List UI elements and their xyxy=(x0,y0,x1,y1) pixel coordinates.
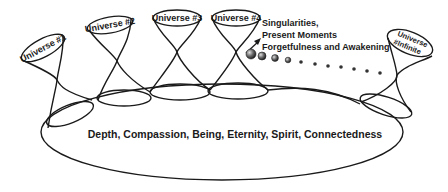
universe-3 xyxy=(150,10,210,100)
universe-3-label: Universe #3 xyxy=(152,13,203,23)
annotation-line-2: Present Moments xyxy=(262,30,337,40)
universe-4-label: Universe #4 xyxy=(211,13,262,23)
annotation-line-1: Singularities, xyxy=(262,18,319,28)
sphere-sequence xyxy=(246,49,382,75)
universe-2-label: Universe #2 xyxy=(84,16,136,35)
annotation-line-3: Forgetfulness and Awakening xyxy=(262,42,390,52)
universes-diagram: Universe #1 Universe #2 Universe #3 Univ… xyxy=(0,0,448,192)
base-label: Depth, Compassion, Being, Eternity, Spir… xyxy=(88,128,383,140)
